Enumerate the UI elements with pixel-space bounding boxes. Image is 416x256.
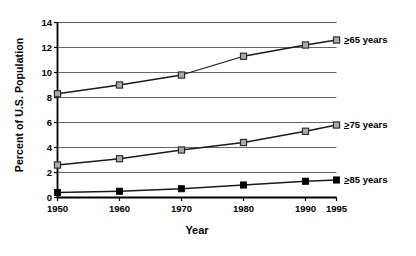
series-label-text: 75 years: [350, 119, 388, 130]
series-line-3: [58, 180, 337, 193]
x-tick-label: 1980: [222, 204, 266, 214]
data-point-marker: [302, 178, 308, 184]
x-tick-label: 1970: [160, 204, 204, 214]
series-line-2: [58, 125, 337, 165]
series-label-text: 85 years: [350, 174, 388, 185]
chart-figure: Percent of U.S. Population Year 02468101…: [0, 0, 416, 256]
data-point-marker: [54, 91, 60, 97]
series-line-1: [58, 40, 337, 94]
data-point-marker: [302, 42, 308, 48]
y-axis-title: Percent of U.S. Population: [6, 0, 32, 210]
data-point-marker: [302, 128, 308, 134]
data-point-marker: [178, 147, 184, 153]
series-label-1: >65 years: [344, 34, 388, 45]
greater-or-equal-icon: >: [344, 34, 350, 45]
data-point-marker: [116, 156, 122, 162]
data-point-marker: [240, 53, 246, 59]
y-tick-label: 2: [30, 168, 52, 178]
y-tick-label: 0: [30, 193, 52, 203]
y-tick-label: 10: [30, 68, 52, 78]
y-tick-label: 14: [30, 18, 52, 28]
data-point-marker: [333, 122, 339, 128]
x-tick-label: 1995: [315, 204, 359, 214]
data-point-marker: [54, 162, 60, 168]
data-point-marker: [178, 186, 184, 192]
series-label-2: >75 years: [344, 119, 388, 130]
data-point-marker: [240, 139, 246, 145]
greater-or-equal-icon: >: [344, 174, 350, 185]
x-tick-label: 1950: [36, 204, 80, 214]
data-point-marker: [116, 188, 122, 194]
data-point-marker: [240, 182, 246, 188]
series-label-text: 65 years: [350, 34, 388, 45]
x-axis-title: Year: [57, 224, 337, 236]
y-tick-label: 4: [30, 143, 52, 153]
series-label-3: >85 years: [344, 174, 388, 185]
greater-or-equal-icon: >: [344, 119, 350, 130]
data-point-marker: [178, 72, 184, 78]
data-point-marker: [54, 189, 60, 195]
y-axis-title-text: Percent of U.S. Population: [13, 38, 25, 172]
y-tick-label: 6: [30, 118, 52, 128]
x-tick-label: 1960: [98, 204, 142, 214]
y-tick-label: 12: [30, 43, 52, 53]
data-point-marker: [116, 82, 122, 88]
data-point-marker: [333, 177, 339, 183]
data-point-marker: [333, 37, 339, 43]
y-tick-label: 8: [30, 93, 52, 103]
